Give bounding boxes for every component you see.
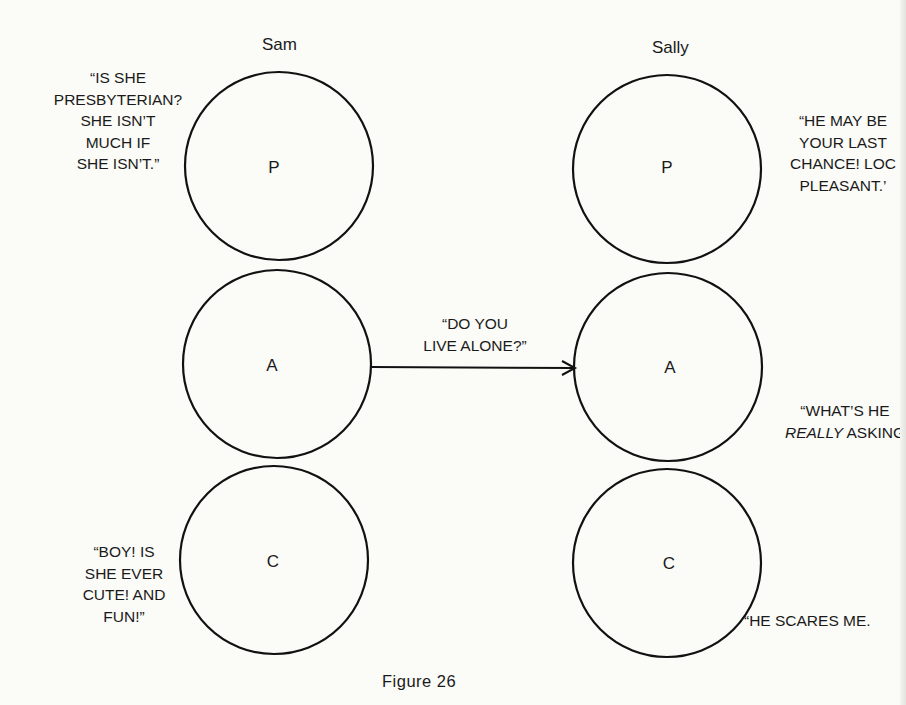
quote-line: SHE ISN’T.” [38, 153, 198, 175]
quote-line: REALLY ASKING [765, 422, 906, 444]
quote-text: ASKING [843, 424, 905, 441]
quote-line: YOUR LAST [768, 132, 906, 154]
sally-child-quote: “HE SCARES ME. [744, 610, 906, 632]
sally-parent-letter: P [652, 158, 682, 178]
sam-child-quote: “BOY! IS SHE EVER CUTE! AND FUN!” [64, 541, 184, 627]
quote-line: PRESBYTERIAN? [38, 89, 198, 111]
sam-parent-quote: “IS SHE PRESBYTERIAN? SHE ISN’T MUCH IF … [38, 67, 198, 175]
quote-line: SHE ISN’T [38, 110, 198, 132]
sam-adult-letter: A [257, 356, 287, 376]
quote-line: “BOY! IS [64, 541, 184, 563]
quote-line: CHANCE! LOC [768, 153, 906, 175]
message-line: “DO YOU [400, 313, 550, 335]
quote-line: SHE EVER [64, 563, 184, 585]
quote-line: PLEASANT.’ [768, 175, 906, 197]
transaction-message: “DO YOU LIVE ALONE?” [400, 313, 550, 356]
sam-parent-letter: P [259, 158, 289, 178]
quote-line: CUTE! AND [64, 584, 184, 606]
quote-line: “HE MAY BE [768, 110, 906, 132]
quote-line: “IS SHE [38, 67, 198, 89]
quote-line: MUCH IF [38, 132, 198, 154]
sally-adult-quote: “WHAT’S HE REALLY ASKING [765, 400, 906, 443]
sally-parent-quote: “HE MAY BE YOUR LAST CHANCE! LOC PLEASAN… [768, 110, 906, 196]
quote-line: FUN!” [64, 606, 184, 628]
figure-caption: Figure 26 [382, 672, 456, 691]
page-edge-shadow [900, 0, 906, 705]
quote-line: “WHAT’S HE [765, 400, 906, 422]
transaction-arrow [371, 361, 575, 375]
sam-child-letter: C [258, 552, 288, 572]
emphasis-text: REALLY [785, 424, 843, 441]
sally-label: Sally [652, 37, 689, 59]
sally-adult-letter: A [655, 358, 685, 378]
sam-label: Sam [262, 34, 297, 56]
quote-line: “HE SCARES ME. [744, 610, 906, 632]
sally-child-letter: C [654, 554, 684, 574]
message-line: LIVE ALONE?” [400, 335, 550, 357]
